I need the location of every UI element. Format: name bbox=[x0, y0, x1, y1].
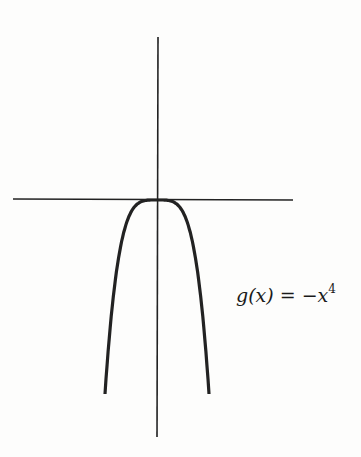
plot-area bbox=[0, 0, 361, 457]
y-axis bbox=[157, 37, 158, 437]
graph-figure: g(x) = −x4 bbox=[0, 0, 361, 457]
function-label: g(x) = −x4 bbox=[236, 284, 336, 306]
